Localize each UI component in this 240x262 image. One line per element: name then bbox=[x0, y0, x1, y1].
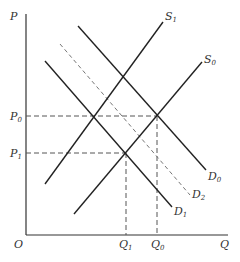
d2-label: D2 bbox=[191, 188, 206, 202]
supply-curve-s1 bbox=[45, 22, 163, 184]
x-axis-label: Q bbox=[220, 238, 229, 251]
s1-label: S1 bbox=[165, 10, 177, 24]
demand-curve-d0 bbox=[78, 26, 206, 170]
s0-label: S0 bbox=[204, 53, 217, 67]
p0-label: P0 bbox=[9, 110, 22, 124]
y-axis-label: P bbox=[9, 10, 18, 23]
demand-curve-d1 bbox=[45, 61, 172, 207]
q0-label: Q0 bbox=[151, 238, 165, 252]
supply-curve-s0 bbox=[74, 62, 202, 214]
demand-curve-d2 bbox=[60, 44, 190, 195]
d1-label: D1 bbox=[173, 205, 187, 219]
supply-demand-diagram: P Q O P0 P1 Q1 Q0 S1 S0 D0 D2 D1 bbox=[0, 0, 240, 262]
origin-label: O bbox=[14, 238, 23, 251]
p1-label: P1 bbox=[9, 147, 22, 161]
q1-label: Q1 bbox=[119, 238, 133, 252]
d0-label: D0 bbox=[207, 170, 222, 184]
